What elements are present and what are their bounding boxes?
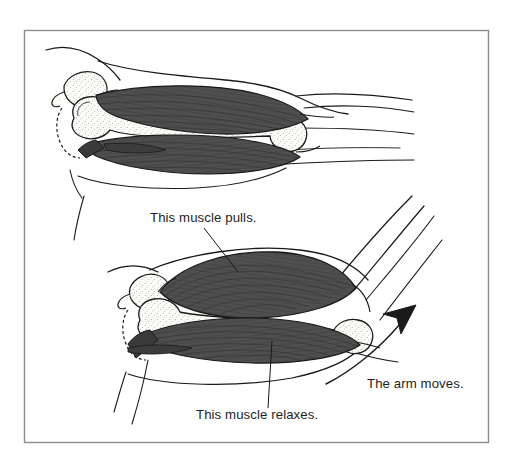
anatomy-figure: This muscle pulls. This muscle relaxes. …	[0, 0, 516, 466]
label-this-muscle-relaxes: This muscle relaxes.	[196, 407, 318, 422]
label-this-muscle-pulls: This muscle pulls.	[150, 210, 257, 225]
illustration-canvas: This muscle pulls. This muscle relaxes. …	[0, 0, 516, 466]
label-the-arm-moves: The arm moves.	[367, 376, 464, 391]
